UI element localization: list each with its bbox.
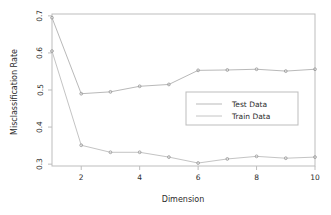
legend-label-test-data: Test Data <box>231 100 267 109</box>
chart-legend: Test Data Train Data <box>186 92 298 125</box>
chart-figure: 0.30.40.50.60.7 246810 Dimension Misclas… <box>0 0 331 215</box>
x-tick-label: 2 <box>79 173 84 182</box>
misclassification-rate-line-chart: 0.30.40.50.60.7 246810 Dimension Misclas… <box>0 0 331 215</box>
y-tick-label: 0.4 <box>36 121 45 133</box>
x-tick-label: 10 <box>310 173 320 182</box>
y-tick-label: 0.7 <box>36 10 45 22</box>
x-tick-label: 8 <box>254 173 259 182</box>
legend-label-train-data: Train Data <box>231 112 270 121</box>
y-tick-label: 0.3 <box>36 158 45 170</box>
y-axis-title: Misclassification Rate <box>10 49 19 135</box>
x-tick-label: 6 <box>196 173 201 182</box>
y-tick-label: 0.5 <box>36 84 45 96</box>
y-tick-label: 0.6 <box>36 47 45 59</box>
x-tick-label: 4 <box>137 173 142 182</box>
x-axis-title: Dimension <box>162 195 205 204</box>
